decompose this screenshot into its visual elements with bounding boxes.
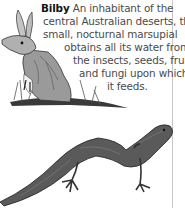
caption-line-5: the insects, seeds, fruit,: [73, 54, 185, 67]
species-caption: Bilby An inhabitant of the central Austr…: [0, 0, 172, 100]
caption-line-2: central Australian deserts, this: [43, 15, 185, 28]
caption-line-4: obtains all its water from: [64, 41, 185, 54]
lizard-illustration: [0, 110, 175, 208]
caption-line-6: and fungi upon which: [79, 67, 185, 80]
caption-line-3: small, nocturnal marsupial: [43, 28, 177, 41]
caption-line-1: Bilby An inhabitant of the: [41, 2, 173, 15]
caption-line-7: it feeds.: [107, 80, 148, 93]
species-name: Bilby: [41, 2, 70, 14]
